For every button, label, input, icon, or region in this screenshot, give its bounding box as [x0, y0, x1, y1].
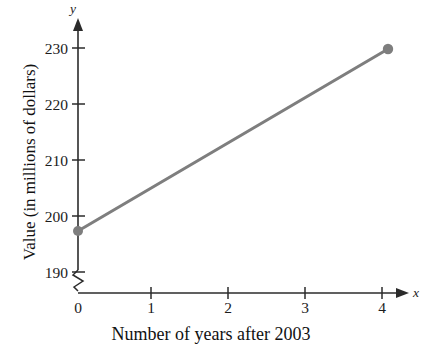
x-tick-label-0: 0 — [64, 300, 92, 316]
y-axis-arrow-icon — [73, 18, 83, 31]
y-axis-title: Value (in millions of dollars) — [20, 22, 40, 302]
x-tick-label-2: 2 — [214, 300, 242, 316]
x-axis-letter: x — [413, 286, 419, 300]
data-point-end — [383, 44, 393, 54]
x-tick-label-3: 3 — [291, 300, 319, 316]
data-line-series-value — [78, 49, 388, 231]
line-chart: 230 220 210 200 190 0 1 2 3 4 y x Number… — [0, 0, 422, 356]
y-axis-letter: y — [70, 2, 76, 16]
x-tick-label-1: 1 — [137, 300, 165, 316]
y-axis-break-icon — [73, 270, 83, 291]
x-axis-title: Number of years after 2003 — [0, 324, 422, 345]
x-axis-arrow-icon — [396, 288, 409, 298]
x-tick-label-4: 4 — [368, 300, 396, 316]
data-point-start — [73, 226, 83, 236]
